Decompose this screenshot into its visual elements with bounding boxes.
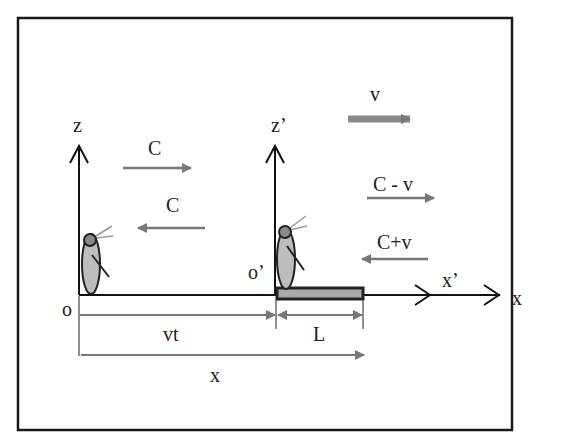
observer-figure-s	[82, 226, 113, 294]
origin-o-label: o	[62, 298, 72, 320]
x-prime-axis-label: x’	[442, 269, 459, 291]
relativity-diagram: z z’ x x’ o o’ C C v C - v C	[0, 0, 571, 446]
origin-o-prime-label: o’	[248, 261, 265, 283]
c-minus-v-label: C - v	[373, 173, 413, 195]
x-axis-label: x	[512, 287, 522, 309]
light-speed-right-label: C	[148, 137, 161, 159]
velocity-label: v	[370, 83, 380, 105]
observer-figure-s-prime	[277, 216, 307, 289]
length-label: L	[313, 323, 325, 345]
z-prime-axis-label: z’	[271, 114, 287, 136]
z-axis-label: z	[73, 114, 82, 136]
light-speed-left-label: C	[166, 194, 179, 216]
vt-label: vt	[163, 323, 179, 345]
x-distance-label: x	[210, 364, 220, 386]
moving-rod	[277, 288, 363, 299]
diagram-border	[18, 18, 512, 430]
c-plus-v-label: C+v	[377, 231, 412, 253]
